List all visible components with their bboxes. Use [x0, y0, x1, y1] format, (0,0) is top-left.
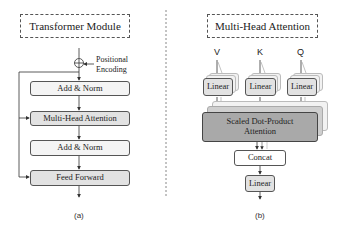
- feed-forward-block: Feed Forward: [30, 170, 130, 186]
- input-k: K: [257, 47, 263, 57]
- transformer-module-title: Transformer Module: [20, 14, 130, 38]
- add-norm-block-2: Add & Norm: [30, 140, 130, 156]
- positional-encoding-line2: Encoding: [96, 65, 128, 75]
- linear-v-block: Linear: [203, 78, 233, 96]
- concat-block: Concat: [234, 150, 286, 166]
- caption-a: (a): [74, 211, 84, 220]
- linear-q-block: Linear: [287, 78, 317, 96]
- caption-b: (b): [255, 211, 265, 220]
- input-q: Q: [297, 47, 304, 57]
- scaled-dot-product-attention-block: Scaled Dot-Product Attention: [202, 112, 318, 142]
- add-norm-block-1: Add & Norm: [30, 81, 130, 96]
- linear-k-block: Linear: [245, 78, 276, 96]
- input-v: V: [214, 47, 220, 57]
- output-linear-block: Linear: [245, 175, 275, 192]
- multi-head-attention-title: Multi-Head Attention: [207, 14, 318, 38]
- multi-head-attention-block: Multi-Head Attention: [30, 111, 130, 126]
- attention-label-line2: Attention: [244, 127, 276, 137]
- positional-encoding-line1: Positional: [96, 55, 128, 65]
- positional-encoding-label: Positional Encoding: [96, 55, 128, 74]
